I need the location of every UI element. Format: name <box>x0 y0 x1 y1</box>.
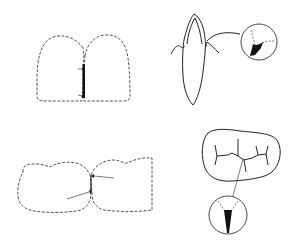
gingiva-right <box>206 42 219 53</box>
fissure-branch-lingual <box>244 160 246 172</box>
fissure-branch-distal <box>266 146 268 165</box>
left-incisor-outline <box>37 36 84 101</box>
anterior-contact-panel <box>37 35 130 101</box>
left-molar-outline <box>18 162 91 212</box>
arrow-upper-molar <box>94 176 114 178</box>
arrow-lower-molar <box>67 192 89 199</box>
enamel-inner-left <box>187 18 195 44</box>
posterior-contact-panel <box>18 158 152 213</box>
tooth-sagittal-panel <box>171 14 277 105</box>
central-fissure <box>217 153 266 160</box>
right-incisor-outline <box>84 35 130 101</box>
leader-line-occlusal <box>232 159 243 199</box>
leader-line-tooth <box>207 33 240 41</box>
right-molar-outline <box>91 158 152 212</box>
occlusal-outline <box>202 129 280 181</box>
magnified-lesion-circle <box>241 24 277 60</box>
arrow-lower <box>78 95 82 96</box>
fissure-branch-mesial <box>215 145 217 165</box>
tooth-outline <box>183 14 206 105</box>
diagram-svg <box>0 0 295 242</box>
occlusal-fissure-panel <box>202 129 280 234</box>
dental-diagram <box>0 0 295 242</box>
fissure-branch-distobuccal <box>256 146 258 155</box>
